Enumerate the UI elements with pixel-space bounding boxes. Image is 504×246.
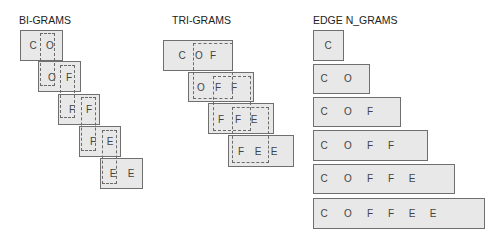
edge-ngram-char: O	[342, 73, 354, 85]
edge-ngram-char: C	[318, 140, 330, 152]
edge-ngram-char: C	[318, 106, 330, 118]
bigrams-title: BI-GRAMS	[19, 14, 71, 26]
edge-ngram-char: F	[364, 173, 376, 185]
bigram-overlap-marker	[40, 33, 55, 86]
edge-ngram-char: F	[364, 106, 376, 118]
edge-ngram-box	[313, 198, 485, 229]
edge-ngram-char: O	[342, 173, 354, 185]
edge-ngram-char: C	[322, 40, 334, 52]
edge-ngram-char: E	[406, 208, 418, 220]
trigram-char: C	[176, 50, 188, 62]
edge-ngram-box	[313, 164, 455, 194]
edge-ngram-char: C	[318, 173, 330, 185]
trigrams-title: TRI-GRAMS	[172, 14, 231, 26]
edge-ngram-char: F	[385, 173, 397, 185]
edge-ngram-char: F	[364, 208, 376, 220]
edge-ngram-char: O	[342, 208, 354, 220]
edge-ngrams-title: EDGE N_GRAMS	[313, 14, 398, 26]
bigram-overlap-marker	[102, 130, 117, 184]
edge-ngram-char: F	[364, 140, 376, 152]
bigram-char: C	[27, 40, 39, 52]
trigram-overlap-marker	[232, 107, 269, 163]
bigram-char: E	[125, 168, 137, 180]
edge-ngram-char: O	[342, 106, 354, 118]
edge-ngram-char: C	[318, 73, 330, 85]
edge-ngram-char: F	[385, 140, 397, 152]
bigram-overlap-marker	[81, 97, 96, 151]
trigram-char: E	[268, 146, 280, 158]
edge-ngram-char: C	[318, 208, 330, 220]
edge-ngram-char: O	[342, 140, 354, 152]
bigram-overlap-marker	[60, 65, 75, 118]
edge-ngram-char: E	[406, 173, 418, 185]
edge-ngram-char: F	[385, 208, 397, 220]
edge-ngram-char: E	[427, 208, 439, 220]
